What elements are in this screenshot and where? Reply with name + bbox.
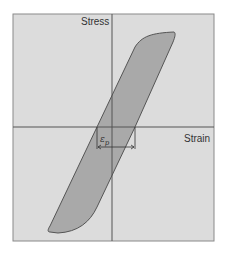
hysteresis-diagram [0, 0, 225, 253]
stress-axis-label: Stress [81, 16, 109, 27]
plastic-strain-label: εp [100, 134, 109, 147]
epsilon-subscript: p [105, 139, 109, 147]
strain-axis-label: Strain [184, 133, 210, 144]
